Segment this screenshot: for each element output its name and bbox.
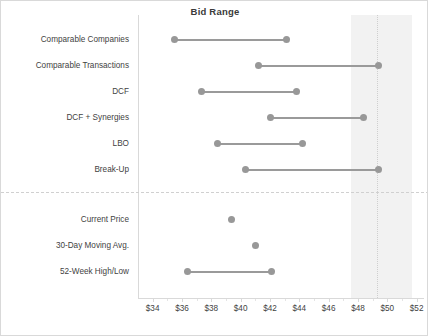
chart-row: 52-Week High/Low [138,265,424,279]
row-label: Break-Up [94,163,129,177]
row-label: 52-Week High/Low [60,265,129,279]
chart-row: Comparable Companies [138,33,424,47]
axis-tick [182,299,183,302]
range-high-marker [283,36,290,43]
chart-row: Break-Up [138,163,424,177]
range-line [201,91,296,93]
range-high-marker [360,114,367,121]
range-low-marker [255,62,262,69]
point-marker [252,242,259,249]
axis-tick-label: $38 [204,304,218,313]
range-low-marker [267,114,274,121]
range-line [258,65,378,67]
axis-tick-minor [285,299,286,301]
range-line [188,271,272,273]
axis-tick-minor [402,299,403,301]
axis-tick [358,299,359,302]
axis-tick-label: $36 [175,304,189,313]
axis-tick-label: $42 [263,304,277,313]
axis-tick-label: $46 [322,304,336,313]
axis-tick [329,299,330,302]
axis-tick-minor [314,299,315,301]
range-high-marker [268,268,275,275]
range-line [217,143,302,145]
axis-tick [153,299,154,302]
axis-tick-minor [167,299,168,301]
range-low-marker [214,140,221,147]
axis-tick-label: $48 [351,304,365,313]
range-high-marker [293,88,300,95]
range-high-marker [375,62,382,69]
axis-tick-label: $44 [292,304,306,313]
row-label: DCF [112,85,129,99]
row-label: Comparable Companies [41,33,129,47]
range-low-marker [184,268,191,275]
range-line [270,117,364,119]
range-low-marker [198,88,205,95]
axis-tick [299,299,300,302]
axis-tick-label: $52 [410,304,424,313]
chart-row: 30-Day Moving Avg. [138,239,424,253]
axis-tick [241,299,242,302]
row-label: DCF + Synergies [66,111,129,125]
range-line [245,169,378,171]
point-marker [228,216,235,223]
range-line [175,39,286,41]
axis-tick-minor [343,299,344,301]
row-label: Comparable Transactions [36,59,129,73]
axis-tick-minor [373,299,374,301]
row-label: 30-Day Moving Avg. [56,239,129,253]
axis-tick-label: $50 [380,304,394,313]
chart-row: LBO [138,137,424,151]
category-axis-line [138,298,424,299]
axis-tick-minor [197,299,198,301]
row-label: LBO [113,137,129,151]
axis-tick-label: $34 [146,304,160,313]
range-low-marker [242,166,249,173]
chart-row: DCF + Synergies [138,111,424,125]
chart-row: DCF [138,85,424,99]
axis-tick-minor [226,299,227,301]
plot-area: Comparable CompaniesComparable Transacti… [138,15,424,298]
range-high-marker [299,140,306,147]
row-label: Current Price [81,213,129,227]
axis-tick [387,299,388,302]
axis-tick [211,299,212,302]
axis-tick [270,299,271,302]
range-high-marker [375,166,382,173]
bid-range-chart: Bid Range Comparable CompaniesComparable… [0,0,428,336]
axis-tick-minor [255,299,256,301]
chart-row: Current Price [138,213,424,227]
axis-tick-label: $40 [234,304,248,313]
range-low-marker [171,36,178,43]
axis-tick [417,299,418,302]
chart-row: Comparable Transactions [138,59,424,73]
